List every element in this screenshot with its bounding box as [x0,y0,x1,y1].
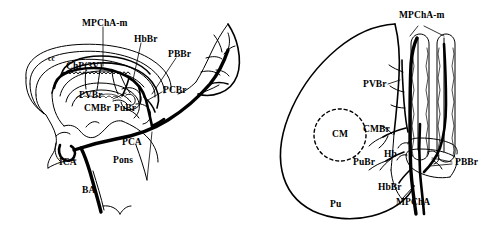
label-pvbr-left: PVBr [79,91,103,101]
label-pca: PCA [122,138,142,148]
label-pons: Pons [113,156,133,166]
label-hbbr-right: HbBr [378,183,402,193]
anatomical-figure: MPChA-m HbBr PBBr cc ChP(3V) PCBr PVBr C… [0,0,497,244]
label-cmbr-right: CMBr [363,125,390,135]
label-cmbr-left: CMBr [84,104,111,114]
label-pu: Pu [330,200,341,210]
label-hb: Hb [384,150,397,160]
label-hbbr-left: HbBr [134,35,158,45]
label-mpcha-m-left: MPChA-m [82,19,128,29]
label-ba: BA [82,186,95,196]
label-pubr-right: PuBr [353,158,375,168]
label-mpcha-m-right: MPChA-m [399,11,445,21]
label-pvbr-right: PVBr [363,80,387,90]
label-pubr-left: PuBr [114,104,136,114]
label-chp3v: ChP(3V) [66,62,103,72]
label-cm: CM [332,130,348,140]
label-mpcha: MPChA [396,198,430,208]
label-pbbr-left: PBBr [168,50,191,60]
right-panel-drawing [280,24,457,219]
label-cc: cc [48,55,55,63]
label-pbbr-right: PBBr [455,158,478,168]
label-pcbr-left: PCBr [163,86,187,96]
label-ica: ICA [59,158,77,168]
